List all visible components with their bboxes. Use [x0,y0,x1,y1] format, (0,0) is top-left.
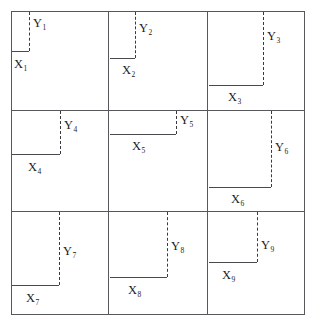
y-label-5: Y5 [180,114,193,127]
x-label-7: X7 [26,292,39,305]
grid-vertical-line-1 [108,11,109,315]
y-segment-4 [60,111,61,154]
y-label-base-5: Y [180,113,189,127]
y-label-sub-7: 7 [72,251,76,260]
x-label-base-7: X [26,291,35,305]
x-label-1: X1 [14,58,27,71]
y-label-8: Y8 [171,240,184,253]
x-label-base-6: X [231,192,240,206]
x-segment-3 [209,85,263,86]
x-label-2: X2 [122,64,135,77]
x-label-6: X6 [231,193,244,206]
figure-canvas: Y1X1Y2X2Y3X3Y4X4Y5X5Y6X6Y7X7Y8X8Y9X9 [0,0,315,327]
x-label-base-9: X [222,268,231,282]
grid-vertical-line-2 [207,11,208,315]
y-segment-1 [29,12,30,51]
grid-horizontal-line-2 [11,211,305,212]
x-segment-9 [209,262,257,263]
x-label-4: X4 [28,161,41,174]
y-segment-7 [59,212,60,285]
x-label-sub-7: 7 [35,298,39,307]
y-label-sub-4: 4 [73,125,77,134]
x-label-sub-3: 3 [237,97,241,106]
y-segment-6 [271,111,272,187]
x-segment-6 [209,187,271,188]
x-label-sub-1: 1 [23,64,27,73]
grid-outer-frame [11,11,305,315]
x-label-base-2: X [122,63,131,77]
y-label-4: Y4 [64,119,77,132]
x-label-sub-9: 9 [231,275,235,284]
x-label-base-8: X [128,283,137,297]
y-label-7: Y7 [63,245,76,258]
x-segment-8 [110,277,167,278]
y-label-sub-5: 5 [189,120,193,129]
y-segment-8 [167,212,168,277]
y-label-sub-6: 6 [284,147,288,156]
x-segment-1 [12,51,29,52]
y-label-9: Y9 [261,239,274,252]
y-label-2: Y2 [139,22,152,35]
x-label-sub-2: 2 [131,70,135,79]
x-label-5: X5 [132,140,145,153]
y-segment-5 [176,111,177,134]
y-label-base-7: Y [63,244,72,258]
y-label-sub-3: 3 [276,36,280,45]
y-segment-3 [263,12,264,85]
x-label-sub-4: 4 [37,167,41,176]
x-segment-2 [110,58,135,59]
x-segment-5 [110,134,176,135]
y-label-sub-2: 2 [148,28,152,37]
y-label-base-9: Y [261,238,270,252]
x-label-base-1: X [14,57,23,71]
y-label-base-4: Y [64,118,73,132]
y-segment-2 [135,12,136,58]
x-label-3: X3 [228,91,241,104]
y-label-sub-8: 8 [180,246,184,255]
x-label-sub-8: 8 [137,290,141,299]
y-label-base-8: Y [171,239,180,253]
y-label-sub-1: 1 [42,23,46,32]
y-label-sub-9: 9 [270,245,274,254]
y-label-6: Y6 [275,141,288,154]
y-label-1: Y1 [33,17,46,30]
x-label-sub-5: 5 [141,146,145,155]
x-segment-7 [12,285,59,286]
x-label-9: X9 [222,269,235,282]
x-label-base-5: X [132,139,141,153]
x-label-base-4: X [28,160,37,174]
x-label-8: X8 [128,284,141,297]
y-segment-9 [257,212,258,262]
y-label-base-6: Y [275,140,284,154]
grid-horizontal-line-1 [11,110,305,111]
y-label-base-2: Y [139,21,148,35]
x-segment-4 [12,154,60,155]
x-label-sub-6: 6 [240,199,244,208]
y-label-3: Y3 [267,30,280,43]
y-label-base-3: Y [267,29,276,43]
x-label-base-3: X [228,90,237,104]
y-label-base-1: Y [33,16,42,30]
